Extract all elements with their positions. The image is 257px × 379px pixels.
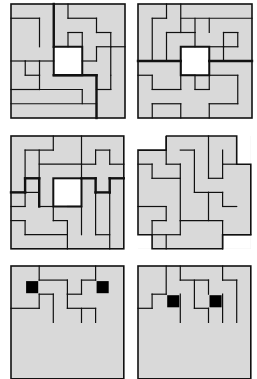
corner-notch — [138, 136, 166, 150]
blocked-square — [210, 295, 222, 307]
center-hole — [54, 47, 83, 76]
blocked-square — [97, 281, 109, 293]
blocked-square — [167, 295, 179, 307]
puzzle-board-p3 — [11, 136, 124, 249]
puzzle-board-p5 — [11, 266, 124, 379]
corner-notch — [237, 136, 251, 164]
center-hole — [53, 178, 81, 206]
puzzle-board-p2 — [138, 4, 252, 118]
puzzle-board-p4 — [138, 136, 251, 249]
puzzle-board-p1 — [11, 4, 125, 118]
corner-notch — [223, 235, 251, 249]
puzzle-board-p6 — [138, 266, 251, 379]
center-hole — [181, 47, 210, 76]
blocked-square — [26, 281, 38, 293]
corner-notch — [138, 235, 152, 249]
